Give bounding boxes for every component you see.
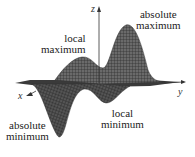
x-axis-label: x [18,90,22,101]
local-maximum-label: local maximum [41,33,86,55]
absolute-maximum-label: absolute maximum [136,9,181,31]
absolute-minimum-label: absolute minimum [6,120,49,142]
absolute-minimum-line2: minimum [6,131,49,142]
surface-figure: z y x absolute maximum local maximum abs… [0,0,195,157]
y-axis-label: y [178,86,182,97]
y-axis-arrow-icon [181,80,186,84]
absolute-maximum-line2: maximum [136,20,181,31]
z-axis-label: z [91,3,95,14]
z-axis-arrow-icon [97,6,101,12]
x-axis-arrow-icon [26,92,33,96]
local-maximum-line2: maximum [41,44,86,55]
local-minimum-line2: minimum [101,119,144,130]
local-minimum-label: local minimum [101,108,144,130]
